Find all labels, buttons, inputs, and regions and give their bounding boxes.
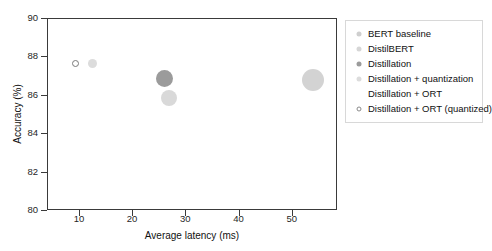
y-axis-title: Accuracy (%) (12, 59, 24, 169)
x-tick-label: 50 (277, 214, 307, 224)
x-tick-label: 40 (224, 214, 254, 224)
x-tick-label: 30 (170, 214, 200, 224)
y-tick-mark (41, 210, 47, 211)
legend-item[interactable]: DistilBERT (350, 41, 478, 56)
legend-label: Distillation + ORT (368, 88, 442, 99)
y-tick-label: 80 (12, 205, 38, 215)
legend-marker-icon (353, 28, 364, 39)
legend-marker-icon (353, 88, 364, 99)
legend-label: Distillation + ORT (quantized) (368, 103, 492, 114)
data-point (88, 59, 97, 68)
y-tick-mark (41, 133, 47, 134)
x-tick-label: 20 (117, 214, 147, 224)
data-point (72, 60, 79, 67)
legend-item[interactable]: Distillation (350, 56, 478, 71)
legend-marker-icon (353, 58, 364, 69)
legend-item[interactable]: Distillation + ORT (quantized) (350, 101, 478, 116)
y-tick-label: 90 (12, 13, 38, 23)
legend-label: DistilBERT (368, 43, 414, 54)
legend-item[interactable]: Distillation + ORT (350, 86, 478, 101)
legend-item[interactable]: Distillation + quantization (350, 71, 478, 86)
data-point (161, 90, 177, 106)
legend-label: Distillation + quantization (368, 73, 473, 84)
data-point (156, 70, 173, 87)
legend-marker-icon (353, 103, 364, 114)
y-tick-mark (41, 95, 47, 96)
y-tick-mark (41, 172, 47, 173)
plot-area (47, 18, 337, 210)
legend-marker-icon (353, 73, 364, 84)
legend-marker-icon (353, 43, 364, 54)
y-tick-mark (41, 56, 47, 57)
chart-legend: BERT baselineDistilBERTDistillationDisti… (345, 20, 483, 123)
legend-label: BERT baseline (368, 28, 431, 39)
y-tick-mark (41, 18, 47, 19)
legend-item[interactable]: BERT baseline (350, 26, 478, 41)
legend-label: Distillation (368, 58, 411, 69)
x-tick-label: 10 (64, 214, 94, 224)
x-axis-title: Average latency (ms) (47, 230, 337, 242)
